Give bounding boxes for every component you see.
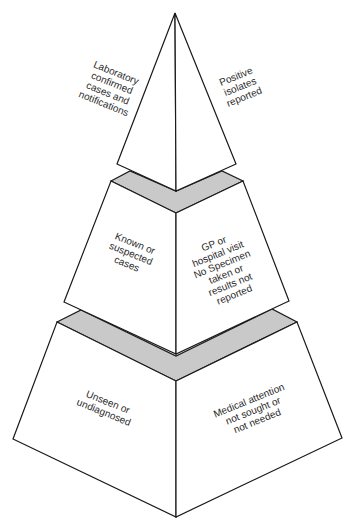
pyramid-diagram [0,0,353,529]
